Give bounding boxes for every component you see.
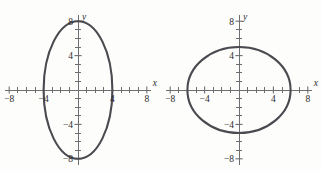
plot-panel-left: −8−44884−4−8 x y (0, 0, 161, 171)
x-tick-label--8: −8 (165, 94, 175, 104)
y-axis-label-left: y (81, 12, 87, 22)
y-tick-label--4: −4 (224, 120, 234, 130)
x-tick-label-4: 4 (271, 94, 276, 104)
x-tick-label--8: −8 (4, 94, 14, 104)
y-tick-label--8: −8 (63, 154, 73, 164)
ellipse-figure: −8−44884−4−8 x y −8−44884−4−8 x y (0, 0, 322, 171)
x-tick-label-4: 4 (110, 94, 115, 104)
y-tick-label--4: −4 (63, 120, 73, 130)
plot-panel-right: −8−44884−4−8 x y (161, 0, 322, 171)
y-tick-label-8: 8 (229, 17, 234, 27)
plot-svg-left: −8−44884−4−8 x y (0, 0, 161, 171)
x-tick-label--4: −4 (200, 94, 210, 104)
x-tick-label-8: 8 (305, 94, 310, 104)
x-axis-label-right: x (313, 78, 319, 88)
y-tick-label--8: −8 (224, 154, 234, 164)
y-tick-label-4: 4 (229, 51, 234, 61)
y-tick-label-8: 8 (68, 17, 73, 27)
x-tick-label-8: 8 (144, 94, 149, 104)
x-tick-label--4: −4 (39, 94, 49, 104)
x-axis-label-left: x (152, 78, 158, 88)
axes-group-left (5, 15, 151, 165)
plot-svg-right: −8−44884−4−8 x y (161, 0, 322, 171)
y-tick-label-4: 4 (68, 51, 73, 61)
y-axis-label-right: y (242, 12, 248, 22)
